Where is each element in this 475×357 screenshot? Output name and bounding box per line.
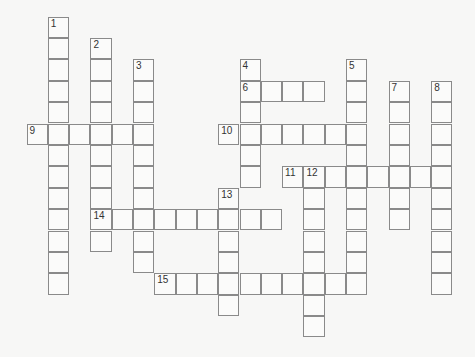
- crossword-cell[interactable]: [240, 273, 261, 294]
- crossword-cell[interactable]: [218, 295, 239, 316]
- crossword-cell[interactable]: [133, 209, 154, 230]
- crossword-cell[interactable]: [197, 273, 218, 294]
- crossword-cell[interactable]: [133, 252, 154, 273]
- crossword-cell[interactable]: [325, 166, 346, 187]
- crossword-cell[interactable]: [90, 59, 111, 80]
- crossword-cell[interactable]: [48, 252, 69, 273]
- crossword-cell[interactable]: [48, 273, 69, 294]
- crossword-cell[interactable]: 2: [90, 38, 111, 59]
- crossword-cell[interactable]: [90, 188, 111, 209]
- crossword-cell[interactable]: [218, 273, 239, 294]
- crossword-cell[interactable]: [346, 166, 367, 187]
- crossword-cell[interactable]: [431, 188, 452, 209]
- crossword-cell[interactable]: [367, 166, 388, 187]
- crossword-cell[interactable]: [303, 209, 324, 230]
- crossword-cell[interactable]: 1: [48, 17, 69, 38]
- crossword-cell[interactable]: [240, 124, 261, 145]
- crossword-cell[interactable]: [346, 231, 367, 252]
- crossword-cell[interactable]: [410, 166, 431, 187]
- crossword-cell[interactable]: [346, 102, 367, 123]
- crossword-cell[interactable]: [303, 252, 324, 273]
- crossword-cell[interactable]: [389, 166, 410, 187]
- crossword-cell[interactable]: [325, 273, 346, 294]
- crossword-cell[interactable]: 8: [431, 81, 452, 102]
- crossword-cell[interactable]: [346, 145, 367, 166]
- crossword-cell[interactable]: [325, 124, 346, 145]
- crossword-cell[interactable]: [90, 145, 111, 166]
- crossword-cell[interactable]: [90, 231, 111, 252]
- crossword-cell[interactable]: [389, 209, 410, 230]
- crossword-cell[interactable]: [282, 124, 303, 145]
- crossword-cell[interactable]: [197, 209, 218, 230]
- crossword-cell[interactable]: 5: [346, 59, 367, 80]
- crossword-cell[interactable]: 7: [389, 81, 410, 102]
- crossword-cell[interactable]: 3: [133, 59, 154, 80]
- crossword-cell[interactable]: 6: [240, 81, 261, 102]
- crossword-cell[interactable]: [69, 124, 90, 145]
- crossword-cell[interactable]: [176, 273, 197, 294]
- crossword-cell[interactable]: [261, 273, 282, 294]
- crossword-cell[interactable]: 15: [154, 273, 175, 294]
- crossword-cell[interactable]: [346, 81, 367, 102]
- crossword-cell[interactable]: [48, 102, 69, 123]
- crossword-cell[interactable]: [431, 209, 452, 230]
- crossword-cell[interactable]: [431, 166, 452, 187]
- crossword-cell[interactable]: [154, 209, 175, 230]
- crossword-cell[interactable]: [282, 81, 303, 102]
- crossword-cell[interactable]: [346, 209, 367, 230]
- crossword-cell[interactable]: [346, 124, 367, 145]
- crossword-cell[interactable]: [133, 231, 154, 252]
- crossword-cell[interactable]: [389, 124, 410, 145]
- crossword-cell[interactable]: [48, 38, 69, 59]
- crossword-cell[interactable]: [346, 252, 367, 273]
- crossword-cell[interactable]: [303, 124, 324, 145]
- crossword-cell[interactable]: [261, 209, 282, 230]
- crossword-cell[interactable]: [133, 102, 154, 123]
- crossword-cell[interactable]: [240, 145, 261, 166]
- crossword-cell[interactable]: [48, 209, 69, 230]
- crossword-cell[interactable]: [346, 273, 367, 294]
- crossword-cell[interactable]: [90, 81, 111, 102]
- crossword-cell[interactable]: [303, 295, 324, 316]
- crossword-cell[interactable]: [240, 102, 261, 123]
- crossword-cell[interactable]: [176, 209, 197, 230]
- crossword-cell[interactable]: [133, 188, 154, 209]
- crossword-cell[interactable]: [133, 145, 154, 166]
- crossword-cell[interactable]: [303, 188, 324, 209]
- crossword-cell[interactable]: [112, 209, 133, 230]
- crossword-cell[interactable]: [431, 124, 452, 145]
- crossword-cell[interactable]: [261, 81, 282, 102]
- crossword-cell[interactable]: [431, 252, 452, 273]
- crossword-cell[interactable]: [48, 145, 69, 166]
- crossword-cell[interactable]: [431, 102, 452, 123]
- crossword-cell[interactable]: [240, 166, 261, 187]
- crossword-cell[interactable]: [303, 231, 324, 252]
- crossword-cell[interactable]: [48, 81, 69, 102]
- crossword-cell[interactable]: [431, 145, 452, 166]
- crossword-cell[interactable]: [389, 188, 410, 209]
- crossword-cell[interactable]: [431, 231, 452, 252]
- crossword-cell[interactable]: 9: [27, 124, 48, 145]
- crossword-cell[interactable]: 12: [303, 166, 324, 187]
- crossword-cell[interactable]: [431, 273, 452, 294]
- crossword-cell[interactable]: [346, 188, 367, 209]
- crossword-cell[interactable]: [218, 252, 239, 273]
- crossword-cell[interactable]: [389, 102, 410, 123]
- crossword-cell[interactable]: [261, 124, 282, 145]
- crossword-cell[interactable]: [112, 124, 133, 145]
- crossword-cell[interactable]: [240, 209, 261, 230]
- crossword-cell[interactable]: [282, 273, 303, 294]
- crossword-cell[interactable]: [90, 102, 111, 123]
- crossword-cell[interactable]: [389, 145, 410, 166]
- crossword-cell[interactable]: [218, 231, 239, 252]
- crossword-cell[interactable]: 13: [218, 188, 239, 209]
- crossword-cell[interactable]: [48, 231, 69, 252]
- crossword-cell[interactable]: [90, 124, 111, 145]
- crossword-cell[interactable]: [48, 166, 69, 187]
- crossword-cell[interactable]: 4: [240, 59, 261, 80]
- crossword-cell[interactable]: [48, 188, 69, 209]
- crossword-cell[interactable]: [218, 209, 239, 230]
- crossword-cell[interactable]: [133, 81, 154, 102]
- crossword-cell[interactable]: [133, 124, 154, 145]
- crossword-cell[interactable]: [48, 59, 69, 80]
